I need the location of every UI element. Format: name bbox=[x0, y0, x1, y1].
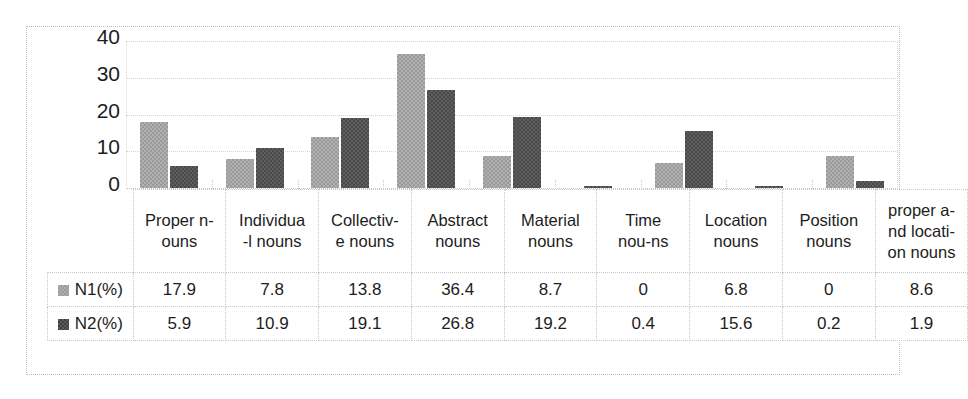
y-axis-tick-labels: 010203040 bbox=[58, 0, 120, 195]
category-label-line: on nouns bbox=[879, 242, 965, 263]
table-value-cell: 0.2 bbox=[782, 307, 875, 341]
bar-N1-8 bbox=[826, 156, 854, 188]
legend-cell-N1: N1(%) bbox=[48, 273, 134, 307]
category-separator bbox=[555, 180, 556, 189]
category-label-line: nd locati- bbox=[879, 221, 965, 242]
bar-N2-8 bbox=[856, 181, 884, 188]
table-value-cell: 1.9 bbox=[875, 307, 968, 341]
bar-group bbox=[126, 41, 212, 188]
category-separator bbox=[212, 180, 213, 189]
y-axis-tick-20: 20 bbox=[60, 100, 120, 121]
category-label-line: nouns bbox=[415, 231, 501, 252]
category-label-line: ouns bbox=[137, 231, 223, 252]
category-label-line: Position bbox=[786, 210, 872, 231]
bar-N2-4 bbox=[513, 117, 541, 188]
bar-N2-1 bbox=[256, 148, 284, 188]
y-axis-tick-30: 30 bbox=[60, 63, 120, 84]
chart-data-table: Proper n-ounsIndividua-l nounsCollectiv-… bbox=[47, 189, 968, 341]
bar-N2-2 bbox=[341, 118, 369, 188]
table-row: N1(%)17.97.813.836.48.706.808.6 bbox=[48, 273, 968, 307]
table-value-cell: 19.2 bbox=[504, 307, 597, 341]
category-separator bbox=[641, 180, 642, 189]
category-label-line: nouns bbox=[693, 231, 779, 252]
bar-N1-1 bbox=[226, 159, 254, 188]
category-label-line: proper a- bbox=[879, 200, 965, 221]
category-label-line: Collectiv- bbox=[322, 210, 408, 231]
table-value-cell: 26.8 bbox=[411, 307, 504, 341]
category-separator bbox=[298, 180, 299, 189]
table-header-row: Proper n-ounsIndividua-l nounsCollectiv-… bbox=[48, 190, 968, 273]
category-header-cell: Abstractnouns bbox=[411, 190, 504, 273]
table-value-cell: 6.8 bbox=[690, 273, 783, 307]
table-value-cell: 7.8 bbox=[226, 273, 319, 307]
table-value-cell: 8.7 bbox=[504, 273, 597, 307]
bar-group bbox=[212, 41, 298, 188]
category-header-cell: Materialnouns bbox=[504, 190, 597, 273]
legend-swatch-icon bbox=[58, 285, 69, 296]
bar-N1-3 bbox=[397, 54, 425, 188]
category-label-line: Abstract bbox=[415, 210, 501, 231]
legend-series-name: N1(%) bbox=[75, 280, 123, 299]
table-value-cell: 0 bbox=[597, 273, 690, 307]
category-separator bbox=[383, 180, 384, 189]
bar-group bbox=[726, 41, 812, 188]
bar-group bbox=[298, 41, 384, 188]
legend-swatch-icon bbox=[58, 319, 69, 330]
table-corner-cell bbox=[48, 190, 134, 273]
chart-plot-area: 010203040 bbox=[0, 0, 927, 195]
chart-bars bbox=[126, 0, 898, 195]
bar-group bbox=[383, 41, 469, 188]
table-value-cell: 0 bbox=[782, 273, 875, 307]
table-value-cell: 10.9 bbox=[226, 307, 319, 341]
y-axis-tick-10: 10 bbox=[60, 136, 120, 157]
category-label-line: Individua bbox=[229, 210, 315, 231]
category-header-cell: Positionnouns bbox=[782, 190, 875, 273]
bar-N2-0 bbox=[170, 166, 198, 188]
legend-cell-N2: N2(%) bbox=[48, 307, 134, 341]
bar-group bbox=[812, 41, 898, 188]
bar-N1-0 bbox=[140, 122, 168, 188]
bar-N2-7 bbox=[755, 186, 783, 188]
bar-N2-3 bbox=[427, 90, 455, 188]
category-label-line: Material bbox=[508, 210, 594, 231]
table-value-cell: 8.6 bbox=[875, 273, 968, 307]
table-value-cell: 13.8 bbox=[319, 273, 412, 307]
category-header-cell: Locationnouns bbox=[690, 190, 783, 273]
category-separator bbox=[726, 180, 727, 189]
legend-series-name: N2(%) bbox=[75, 314, 123, 333]
bar-group bbox=[469, 41, 555, 188]
category-header-cell: Individua-l nouns bbox=[226, 190, 319, 273]
category-header-cell: Timenou-ns bbox=[597, 190, 690, 273]
table-value-cell: 0.4 bbox=[597, 307, 690, 341]
category-label-line: e nouns bbox=[322, 231, 408, 252]
table-value-cell: 15.6 bbox=[690, 307, 783, 341]
bar-N2-5 bbox=[584, 186, 612, 188]
category-label-line: -l nouns bbox=[229, 231, 315, 252]
bar-N1-4 bbox=[483, 156, 511, 188]
y-axis-tick-40: 40 bbox=[60, 26, 120, 47]
bar-group bbox=[641, 41, 727, 188]
table-value-cell: 36.4 bbox=[411, 273, 504, 307]
bar-N1-2 bbox=[311, 137, 339, 188]
category-label-line: nou-ns bbox=[600, 231, 686, 252]
table-value-cell: 17.9 bbox=[133, 273, 226, 307]
table-row: N2(%)5.910.919.126.819.20.415.60.21.9 bbox=[48, 307, 968, 341]
category-separator bbox=[469, 180, 470, 189]
category-label-line: Time bbox=[600, 210, 686, 231]
category-label-line: Location bbox=[693, 210, 779, 231]
category-header-cell: proper a-nd locati-on nouns bbox=[875, 190, 968, 273]
bar-N2-6 bbox=[685, 131, 713, 188]
category-label-line: nouns bbox=[786, 231, 872, 252]
table-value-cell: 5.9 bbox=[133, 307, 226, 341]
category-header-cell: Proper n-ouns bbox=[133, 190, 226, 273]
category-header-cell: Collectiv-e nouns bbox=[319, 190, 412, 273]
category-label-line: Proper n- bbox=[137, 210, 223, 231]
bar-N1-6 bbox=[655, 163, 683, 188]
category-separator bbox=[812, 180, 813, 189]
category-label-line: nouns bbox=[508, 231, 594, 252]
table-value-cell: 19.1 bbox=[319, 307, 412, 341]
bar-group bbox=[555, 41, 641, 188]
